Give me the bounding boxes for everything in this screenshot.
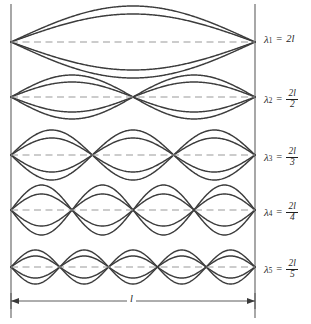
fraction-numerator-3: 2l	[288, 147, 297, 157]
length-label: l	[127, 293, 136, 304]
harmonic-1-curve	[11, 14, 255, 42]
dimension-right-arrow-icon	[247, 298, 255, 304]
harmonic-1-curve	[11, 42, 255, 78]
harmonic-5-label: λ5=2l5	[264, 259, 298, 280]
wavelength-value-1: 2l	[286, 34, 294, 45]
wavelength-fraction-4: 2l4	[286, 202, 298, 223]
fraction-denominator-3: 3	[289, 158, 296, 168]
equals-sign-5: =	[276, 264, 282, 275]
harmonic-3-label: λ3=2l3	[264, 147, 298, 168]
equals-sign-4: =	[276, 207, 282, 218]
fraction-numerator-2: 2l	[288, 89, 297, 99]
harmonic-1-curve	[11, 42, 255, 70]
harmonic-1-curve	[11, 6, 255, 42]
lambda-subscript-4: 4	[269, 211, 273, 218]
wavelength-fraction-3: 2l3	[286, 147, 298, 168]
lambda-subscript-1: 1	[269, 38, 273, 45]
wavelength-fraction-5: 2l5	[286, 259, 298, 280]
wavelength-fraction-2: 2l2	[286, 89, 298, 110]
fraction-denominator-4: 4	[289, 213, 296, 223]
harmonic-2-label: λ2=2l2	[264, 89, 298, 110]
fraction-denominator-2: 2	[289, 100, 296, 110]
lambda-subscript-3: 3	[269, 156, 273, 163]
wall-lines	[11, 4, 255, 318]
standing-wave-figure: λ1=2lλ2=2l2λ3=2l3λ4=2l4λ5=2l5 l	[0, 0, 311, 324]
fraction-denominator-5: 5	[289, 270, 296, 280]
equals-sign-1: =	[276, 34, 282, 45]
equals-sign-3: =	[276, 152, 282, 163]
harmonic-1-label: λ1=2l	[264, 34, 294, 45]
fraction-numerator-4: 2l	[288, 202, 297, 212]
lambda-subscript-2: 2	[269, 98, 273, 105]
dimension-left-arrow-icon	[11, 298, 19, 304]
lambda-subscript-5: 5	[269, 268, 273, 275]
fraction-numerator-5: 2l	[288, 259, 297, 269]
equals-sign-2: =	[276, 94, 282, 105]
wave-curves-group	[11, 6, 255, 284]
harmonic-4-label: λ4=2l4	[264, 202, 298, 223]
